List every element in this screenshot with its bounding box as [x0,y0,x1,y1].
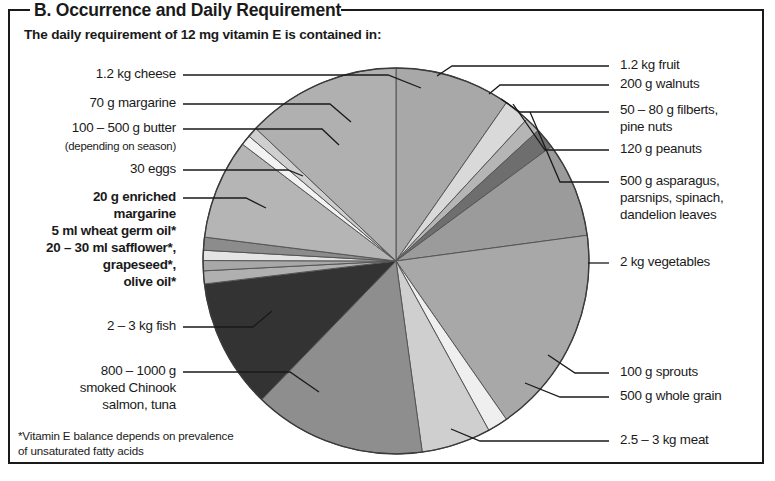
footnote: *Vitamin E balance depends on prevalence… [18,428,318,458]
label-sprouts: 100 g sprouts [620,364,698,381]
label-asparagus-line2: parsnips, spinach, [620,190,723,207]
label-whole-grain: 500 g whole grain [620,388,721,405]
label-vegetables: 2 kg vegetables [620,254,710,271]
label-peanuts: 120 g peanuts [620,141,702,158]
label-enriched-margarine-line2: margarine [0,206,176,223]
label-cheese: 1.2 kg cheese [0,66,176,83]
label-salmon-line1: 800 – 1000 g [0,363,176,380]
leader-walnuts [489,85,609,94]
label-salmon-line2: smoked Chinook [0,380,176,397]
label-filberts-line1: 50 – 80 g filberts, [620,102,718,119]
label-safflower-line2: grapeseed*, [0,257,176,274]
label-wheat-germ-oil: 5 ml wheat germ oil* [0,223,176,240]
label-safflower-line1: 20 – 30 ml safflower*, [0,240,176,257]
label-butter-note: (depending on season) [0,138,176,155]
footnote-line-2: of unsaturated fatty acids [18,443,318,458]
label-salmon-line3: salmon, tuna [0,397,176,414]
label-filberts-line2: pine nuts [620,119,672,136]
label-fruit: 1.2 kg fruit [620,57,680,74]
label-margarine-70g: 70 g margarine [0,95,176,112]
label-butter: 100 – 500 g butter [0,120,176,137]
footnote-line-1: *Vitamin E balance depends on prevalence [18,428,318,443]
label-fish: 2 – 3 kg fish [0,318,176,335]
label-enriched-margarine-line1: 20 g enriched [0,189,176,206]
label-safflower-line3: olive oil* [0,274,176,291]
label-asparagus-line1: 500 g asparagus, [620,173,719,190]
leader-fruit [437,66,609,76]
label-walnuts: 200 g walnuts [620,76,699,93]
label-meat: 2.5 – 3 kg meat [620,432,709,449]
label-asparagus-line3: dandelion leaves [620,207,717,224]
label-eggs: 30 eggs [0,161,176,178]
pie-slices: 1.2 kg fruit200 g walnuts50 – 80 g filbe… [203,68,589,454]
